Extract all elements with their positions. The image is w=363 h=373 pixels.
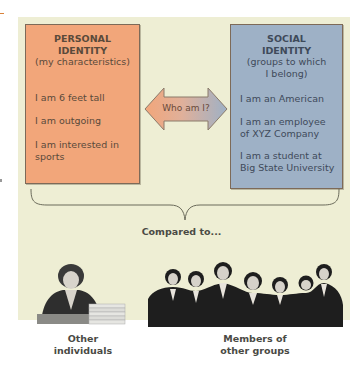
social-item: I am a student at Big State University (240, 150, 336, 173)
group-of-men-photo (148, 255, 344, 327)
title-line: SOCIAL (231, 33, 342, 45)
item-line: I am an employee (240, 116, 336, 128)
subtitle-line: I belong) (231, 68, 342, 80)
personal-item: I am outgoing (35, 115, 133, 127)
social-item: I am an American (240, 93, 336, 105)
social-identity-box: SOCIAL IDENTITY (groups to which I belon… (230, 24, 343, 189)
title-line: IDENTITY (26, 45, 139, 57)
title-line: IDENTITY (231, 45, 342, 57)
personal-identity-box: PERSONAL IDENTITY (my characteristics) I… (25, 24, 140, 184)
compared-to-label: Compared to... (0, 226, 363, 237)
social-identity-title: SOCIAL IDENTITY (231, 33, 342, 56)
item-line: I am 6 feet tall (35, 92, 133, 104)
personal-item: I am interested in sports (35, 139, 133, 162)
item-line: I am an American (240, 93, 336, 105)
social-item: I am an employee of XYZ Company (240, 116, 336, 139)
caption-line: Other (40, 333, 126, 345)
item-line: Big State University (240, 162, 336, 174)
margin-marker-top (0, 13, 4, 14)
caption-other-individuals: Other individuals (40, 333, 126, 357)
caption-line: other groups (200, 345, 310, 357)
who-am-i-label: Who am I? (144, 103, 228, 113)
social-identity-subtitle: (groups to which I belong) (231, 56, 342, 79)
personal-item: I am 6 feet tall (35, 92, 133, 104)
caption-line: individuals (40, 345, 126, 357)
title-line: PERSONAL (26, 33, 139, 45)
item-line: I am interested in (35, 139, 133, 151)
who-am-i-arrow: Who am I? (144, 86, 228, 132)
item-line: I am outgoing (35, 115, 133, 127)
margin-marker-bottom (0, 179, 2, 182)
subtitle-line: (groups to which (231, 56, 342, 68)
item-line: of XYZ Company (240, 128, 336, 140)
curly-brace-icon (25, 188, 345, 224)
caption-members-other-groups: Members of other groups (200, 333, 310, 357)
caption-line: Members of (200, 333, 310, 345)
personal-identity-title: PERSONAL IDENTITY (26, 33, 139, 56)
item-line: sports (35, 151, 133, 163)
personal-identity-subtitle: (my characteristics) (26, 56, 139, 68)
woman-at-desk-photo (33, 262, 128, 328)
item-line: I am a student at (240, 150, 336, 162)
